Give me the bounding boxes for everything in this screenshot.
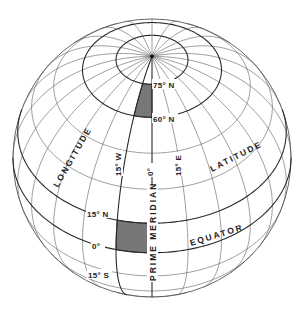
label-15w: 15° W bbox=[114, 152, 123, 176]
label-15e: 15° E bbox=[174, 154, 183, 176]
label-15s: 15° S bbox=[88, 271, 110, 280]
label-15n: 15° N bbox=[87, 210, 109, 219]
north-pole-dot bbox=[150, 55, 154, 59]
label-60n: 60° N bbox=[153, 115, 175, 124]
label-prime-meridian: PRIME MERIDIAN bbox=[148, 182, 158, 281]
globe-diagram: 75° N 60° N 15° N 0° 15° S 15° W 0° 15° … bbox=[0, 0, 300, 318]
label-0-lon: 0° bbox=[146, 168, 155, 176]
label-75n: 75° N bbox=[153, 81, 175, 90]
label-0-lat: 0° bbox=[92, 242, 100, 251]
